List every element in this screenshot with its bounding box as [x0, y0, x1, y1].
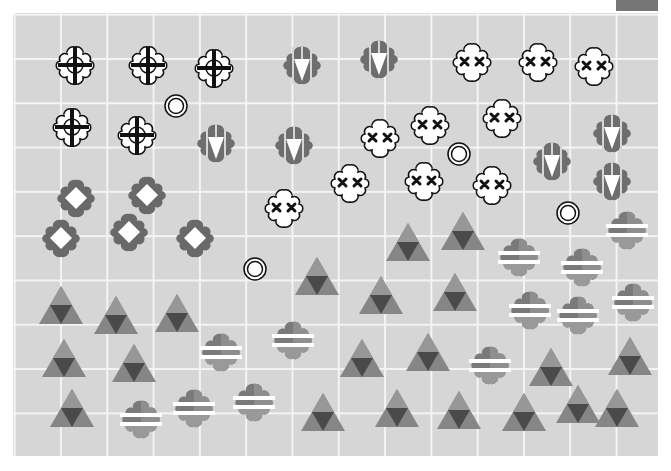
- striped-cloud-icon: [232, 380, 276, 424]
- triangle-icon: [294, 256, 340, 296]
- arrow-shield-piece[interactable]: [194, 121, 238, 165]
- triangle-piece[interactable]: [594, 388, 640, 428]
- diamond-flower-piece[interactable]: [39, 216, 83, 260]
- triangle-piece[interactable]: [528, 347, 574, 387]
- triangle-piece[interactable]: [154, 293, 200, 333]
- target-ring-icon: [163, 93, 189, 119]
- target-ring-piece[interactable]: [555, 200, 581, 226]
- triangle-icon: [41, 338, 87, 378]
- triangle-piece[interactable]: [374, 388, 420, 428]
- striped-cloud-piece[interactable]: [611, 280, 655, 324]
- xx-cloud-icon: [516, 40, 560, 84]
- xx-cloud-piece[interactable]: [470, 163, 514, 207]
- triangle-icon: [432, 272, 478, 312]
- xx-cloud-piece[interactable]: [328, 161, 372, 205]
- arrow-shield-icon: [590, 111, 634, 155]
- striped-cloud-piece[interactable]: [232, 380, 276, 424]
- triangle-piece[interactable]: [38, 285, 84, 325]
- arrow-shield-piece[interactable]: [357, 37, 401, 81]
- arrow-shield-icon: [272, 123, 316, 167]
- xx-cloud-piece[interactable]: [480, 96, 524, 140]
- crosshair-cloud-icon: [126, 43, 170, 87]
- arrow-shield-piece[interactable]: [530, 139, 574, 183]
- crosshair-cloud-icon: [53, 43, 97, 87]
- xx-cloud-icon: [470, 163, 514, 207]
- triangle-piece[interactable]: [41, 338, 87, 378]
- diamond-flower-piece[interactable]: [107, 210, 151, 254]
- target-ring-piece[interactable]: [242, 256, 268, 282]
- triangle-icon: [358, 275, 404, 315]
- triangle-piece[interactable]: [607, 336, 653, 376]
- xx-cloud-piece[interactable]: [402, 159, 446, 203]
- crosshair-cloud-piece[interactable]: [126, 43, 170, 87]
- striped-cloud-icon: [497, 235, 541, 279]
- crosshair-cloud-icon: [50, 105, 94, 149]
- xx-cloud-piece[interactable]: [516, 40, 560, 84]
- target-ring-icon: [555, 200, 581, 226]
- striped-cloud-icon: [172, 386, 216, 430]
- striped-cloud-piece[interactable]: [497, 235, 541, 279]
- triangle-piece[interactable]: [294, 256, 340, 296]
- striped-cloud-icon: [271, 318, 315, 362]
- arrow-shield-piece[interactable]: [280, 43, 324, 87]
- xx-cloud-piece[interactable]: [358, 116, 402, 160]
- triangle-icon: [374, 388, 420, 428]
- target-ring-piece[interactable]: [446, 141, 472, 167]
- crosshair-cloud-icon: [192, 46, 236, 90]
- arrow-shield-piece[interactable]: [590, 159, 634, 203]
- triangle-piece[interactable]: [93, 295, 139, 335]
- striped-cloud-piece[interactable]: [556, 293, 600, 337]
- striped-cloud-icon: [556, 293, 600, 337]
- striped-cloud-icon: [468, 343, 512, 387]
- striped-cloud-piece[interactable]: [508, 288, 552, 332]
- diamond-flower-piece[interactable]: [54, 176, 98, 220]
- arrow-shield-icon: [194, 121, 238, 165]
- triangle-piece[interactable]: [385, 222, 431, 262]
- triangle-icon: [93, 295, 139, 335]
- triangle-piece[interactable]: [501, 392, 547, 432]
- triangle-icon: [49, 388, 95, 428]
- xx-cloud-icon: [450, 40, 494, 84]
- triangle-icon: [339, 338, 385, 378]
- diamond-flower-icon: [107, 210, 151, 254]
- striped-cloud-piece[interactable]: [468, 343, 512, 387]
- triangle-piece[interactable]: [405, 332, 451, 372]
- triangle-icon: [594, 388, 640, 428]
- crosshair-cloud-piece[interactable]: [115, 113, 159, 157]
- target-ring-icon: [446, 141, 472, 167]
- triangle-icon: [528, 347, 574, 387]
- xx-cloud-icon: [402, 159, 446, 203]
- crosshair-cloud-piece[interactable]: [53, 43, 97, 87]
- crosshair-cloud-piece[interactable]: [192, 46, 236, 90]
- triangle-icon: [300, 392, 346, 432]
- triangle-piece[interactable]: [300, 392, 346, 432]
- striped-cloud-piece[interactable]: [605, 208, 649, 252]
- xx-cloud-icon: [262, 186, 306, 230]
- arrow-shield-piece[interactable]: [272, 123, 316, 167]
- corner-tab[interactable]: [616, 0, 658, 11]
- triangle-piece[interactable]: [440, 211, 486, 251]
- triangle-icon: [405, 332, 451, 372]
- xx-cloud-piece[interactable]: [450, 40, 494, 84]
- triangle-piece[interactable]: [339, 338, 385, 378]
- crosshair-cloud-piece[interactable]: [50, 105, 94, 149]
- xx-cloud-piece[interactable]: [262, 186, 306, 230]
- triangle-piece[interactable]: [49, 388, 95, 428]
- striped-cloud-piece[interactable]: [119, 397, 163, 441]
- striped-cloud-piece[interactable]: [560, 245, 604, 289]
- triangle-piece[interactable]: [111, 343, 157, 383]
- diamond-flower-piece[interactable]: [173, 216, 217, 260]
- triangle-piece[interactable]: [436, 390, 482, 430]
- xx-cloud-piece[interactable]: [572, 44, 616, 88]
- triangle-piece[interactable]: [358, 275, 404, 315]
- diamond-flower-icon: [173, 216, 217, 260]
- target-ring-piece[interactable]: [163, 93, 189, 119]
- triangle-icon: [436, 390, 482, 430]
- striped-cloud-piece[interactable]: [271, 318, 315, 362]
- striped-cloud-icon: [611, 280, 655, 324]
- striped-cloud-piece[interactable]: [199, 330, 243, 374]
- triangle-piece[interactable]: [432, 272, 478, 312]
- striped-cloud-piece[interactable]: [172, 386, 216, 430]
- arrow-shield-piece[interactable]: [590, 111, 634, 155]
- game-board[interactable]: [13, 13, 658, 456]
